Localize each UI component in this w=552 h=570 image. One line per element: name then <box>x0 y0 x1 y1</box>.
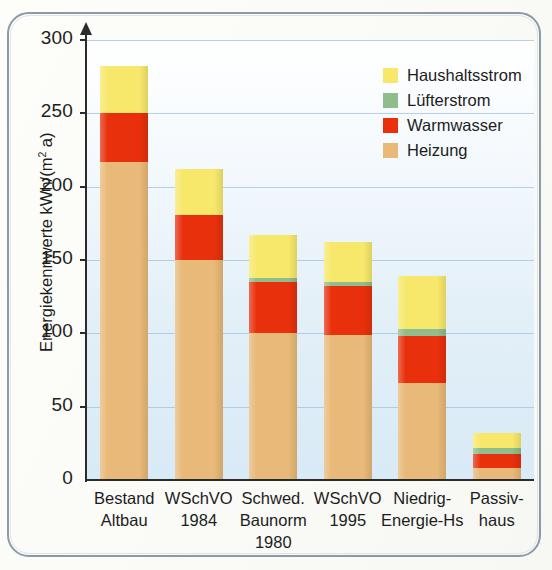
legend-item-1: Haushaltsstrom <box>383 63 533 88</box>
x-axis-label-line: Passiv- <box>454 487 541 509</box>
bar-3 <box>249 235 297 480</box>
y-axis-title-tail: a) <box>37 132 55 151</box>
y-axis-tick-label: 50 <box>29 394 73 416</box>
legend-label: Lüfterstrom <box>407 91 490 110</box>
y-axis-tick <box>80 406 87 408</box>
x-axis-category-labels: BestandAltbauWSchVO1984Schwed.Baunorm198… <box>87 487 534 567</box>
legend-swatch-icon <box>383 143 398 158</box>
y-axis-title-superscript: 2 <box>36 152 48 158</box>
legend-swatch-icon <box>383 68 398 83</box>
y-axis-tick <box>80 259 87 261</box>
legend-item-2: Lüfterstrom <box>383 88 533 113</box>
y-axis-tick-label: 300 <box>29 27 73 49</box>
bar-segment-heizung <box>398 383 446 480</box>
bar-segment-warmwasser <box>398 336 446 383</box>
bar-segment-haushalt <box>324 242 372 282</box>
bar-segment-haushalt <box>473 433 521 448</box>
bar-6 <box>473 433 521 480</box>
bar-segment-heizung <box>249 333 297 480</box>
x-axis-label-line: 1980 <box>230 531 317 553</box>
x-axis-label-line: haus <box>454 509 541 531</box>
bar-segment-heizung <box>100 162 148 480</box>
gridline <box>87 407 534 408</box>
bar-segment-haushalt <box>175 169 223 214</box>
legend-label: Haushaltsstrom <box>407 66 522 85</box>
bar-segment-warmwasser <box>473 454 521 469</box>
x-axis-line <box>85 479 534 481</box>
bar-2 <box>175 169 223 480</box>
bar-4 <box>324 242 372 480</box>
x-axis-label-6: Passiv-haus <box>454 487 541 531</box>
legend-label: Heizung <box>407 141 468 160</box>
legend-swatch-icon <box>383 118 398 133</box>
bar-segment-warmwasser <box>100 113 148 161</box>
gridline <box>87 333 534 334</box>
bar-segment-luefter <box>249 278 297 282</box>
gridline <box>87 40 534 41</box>
bar-segment-luefter <box>324 282 372 286</box>
bar-1 <box>100 66 148 480</box>
y-axis-tick-label: 0 <box>29 467 73 489</box>
bar-segment-heizung <box>324 335 372 480</box>
bar-5 <box>398 276 446 480</box>
legend-item-4: Heizung <box>383 138 533 163</box>
page-background: 050100150200250300 Energiekennwerte kWh/… <box>0 0 552 570</box>
bar-segment-haushalt <box>249 235 297 278</box>
y-axis-tick <box>80 332 87 334</box>
y-axis-tick <box>80 186 87 188</box>
legend: HaushaltsstromLüfterstromWarmwasserHeizu… <box>383 63 533 163</box>
legend-label: Warmwasser <box>407 116 503 135</box>
y-axis-tick <box>80 112 87 114</box>
bar-segment-warmwasser <box>175 215 223 260</box>
y-axis-tick <box>80 39 87 41</box>
bar-segment-warmwasser <box>249 282 297 333</box>
y-axis-title: Energiekennwerte kWh/(m2 a) <box>36 92 57 392</box>
legend-swatch-icon <box>383 93 398 108</box>
bar-segment-haushalt <box>398 276 446 329</box>
bar-segment-warmwasser <box>324 286 372 334</box>
legend-item-3: Warmwasser <box>383 113 533 138</box>
bar-segment-luefter <box>398 329 446 336</box>
gridline <box>87 260 534 261</box>
y-axis-title-main: Energiekennwerte kWh/(m <box>37 158 55 352</box>
gridline <box>87 187 534 188</box>
y-axis-arrow-icon <box>80 22 92 35</box>
bar-segment-heizung <box>175 260 223 480</box>
bar-segment-luefter <box>473 448 521 454</box>
bar-segment-haushalt <box>100 66 148 113</box>
y-axis-line <box>85 34 87 482</box>
